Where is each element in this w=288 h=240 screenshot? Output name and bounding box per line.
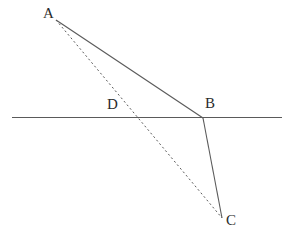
incident-ray-AB	[56, 20, 203, 118]
geometry-diagram: A B C D	[0, 0, 288, 240]
straight-path-AC-dashed	[56, 20, 222, 218]
vertex-label-d: D	[107, 97, 118, 112]
vertex-label-a: A	[43, 6, 54, 21]
refracted-ray-BC	[203, 118, 222, 218]
geometry-canvas	[0, 0, 288, 240]
vertex-label-c: C	[226, 213, 236, 228]
vertex-label-b: B	[205, 96, 215, 111]
